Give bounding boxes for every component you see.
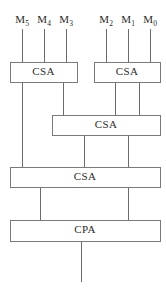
input-label-sub-m5: 5 xyxy=(25,19,29,28)
input-label-m4: M4 xyxy=(37,14,51,25)
wallace-tree-diagram: CSACSACSACSACPA M5M4M3M2M1M0 xyxy=(0,0,166,288)
block-csa-1: CSA xyxy=(11,63,78,83)
input-label-m2: M2 xyxy=(99,14,113,25)
input-label-base-m4: M xyxy=(37,13,47,25)
input-label-m1: M1 xyxy=(121,14,135,25)
input-label-sub-m3: 3 xyxy=(69,19,73,28)
input-label-sub-m4: 4 xyxy=(47,19,51,28)
block-csa-4: CSA xyxy=(11,168,161,188)
block-label-csa-2: CSA xyxy=(116,65,138,77)
block-label-csa-3: CSA xyxy=(95,118,117,130)
input-label-base-m5: M xyxy=(15,13,25,25)
input-label-base-m1: M xyxy=(121,13,131,25)
input-label-base-m2: M xyxy=(99,13,109,25)
block-csa-2: CSA xyxy=(95,63,161,83)
input-label-base-m3: M xyxy=(59,13,69,25)
input-label-sub-m0: 0 xyxy=(153,19,157,28)
block-label-csa-4: CSA xyxy=(74,170,96,182)
input-label-m3: M3 xyxy=(59,14,73,25)
input-label-m0: M0 xyxy=(143,14,157,25)
block-label-cpa-1: CPA xyxy=(74,223,95,235)
box-layer: CSACSACSACSACPA xyxy=(11,63,161,242)
block-csa-3: CSA xyxy=(53,116,161,136)
block-cpa-1: CPA xyxy=(11,221,161,242)
input-label-m5: M5 xyxy=(15,14,29,25)
input-label-sub-m2: 2 xyxy=(109,19,113,28)
diagram-canvas: CSACSACSACSACPA xyxy=(0,0,166,288)
block-label-csa-1: CSA xyxy=(32,65,54,77)
input-label-base-m0: M xyxy=(143,13,153,25)
input-label-sub-m1: 1 xyxy=(131,19,135,28)
